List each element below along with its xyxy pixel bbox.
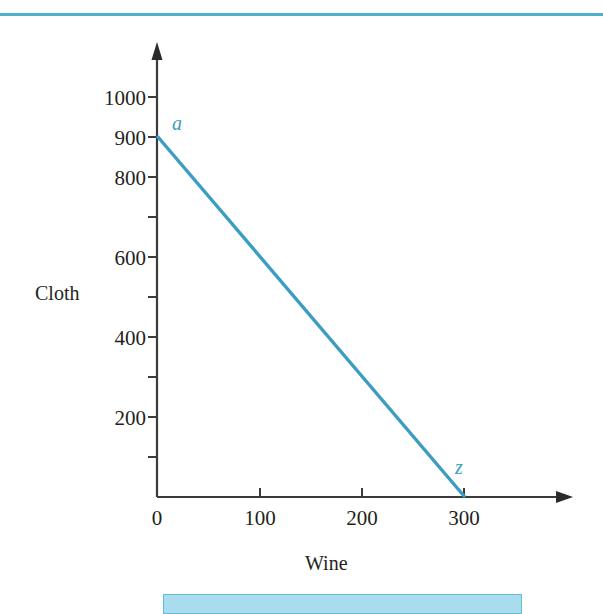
y-axis-ticks	[148, 97, 157, 457]
x-tick-label-300: 300	[434, 508, 494, 529]
y-tick-label-400: 400	[88, 328, 146, 349]
chart-figure: 1000 900 800 600 400 200 0 100 200 300 C…	[0, 0, 603, 614]
x-tick-label-100: 100	[230, 508, 290, 529]
y-tick-label-800: 800	[88, 168, 146, 189]
y-tick-label-600: 600	[88, 248, 146, 269]
ppf-line-series	[158, 137, 464, 496]
y-tick-label-1000: 1000	[88, 88, 146, 109]
annotation-point-z: z	[455, 457, 463, 477]
y-tick-label-900: 900	[88, 128, 146, 149]
y-axis-arrowhead-icon	[152, 42, 163, 60]
x-axis-ticks	[260, 488, 464, 497]
y-tick-label-200: 200	[88, 408, 146, 429]
x-tick-label-200: 200	[332, 508, 392, 529]
bottom-caption-bar	[163, 594, 522, 614]
x-axis-arrowhead-icon	[556, 491, 573, 503]
x-tick-label-0: 0	[127, 508, 187, 529]
x-axis-title: Wine	[305, 553, 348, 573]
y-axis-title: Cloth	[35, 283, 79, 303]
annotation-point-a: a	[172, 113, 182, 133]
